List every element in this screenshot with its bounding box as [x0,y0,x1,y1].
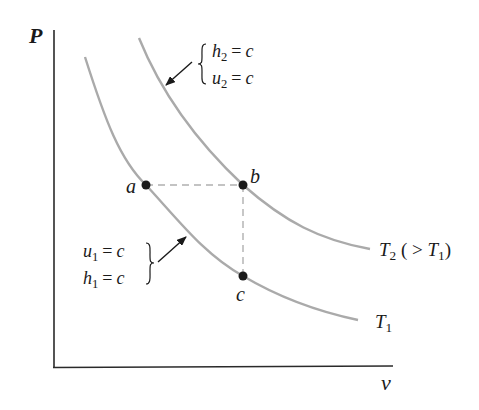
eq-op: = [98,241,116,261]
x-axis-label: v [381,372,391,394]
isotherm-T2-label: T2 ( > T1) [379,240,451,262]
eq-rhs: c [116,268,124,288]
eq-op: = [227,68,245,88]
x-axis [53,366,393,368]
y-axis-label: P [29,25,42,47]
point-b [239,181,248,190]
label-sub: 2 [390,248,397,263]
point-c-label: c [236,284,245,304]
eq-lhs: h [83,268,92,288]
pv-diagram: P v a b c h2=c u2=c u1=c h1=c T2 ( > T1)… [0,0,479,410]
eq-op: = [98,268,116,288]
left-brace-icon [198,44,206,84]
label-compare-T: T [428,239,439,260]
label-compare-sub: 1 [438,248,445,263]
eq-rhs: c [116,241,124,261]
point-a [142,181,151,190]
eq-lhs: h [212,41,221,61]
point-c [239,272,248,281]
equation-u1-const: u1=c [83,241,124,268]
annotation-T1: u1=c h1=c [83,241,124,295]
equation-h1-const: h1=c [83,268,124,295]
isotherm-T1-label: T1 [375,312,392,334]
eq-lhs: u [83,241,92,261]
point-a-label: a [126,176,136,196]
eq-rhs: c [245,68,253,88]
eq-rhs: c [245,41,253,61]
label-main: T [375,311,386,332]
equation-u2-const: u2=c [212,68,253,95]
label-main: T [379,239,390,260]
right-brace-icon [146,243,154,284]
arrow-to-T2-icon [166,62,192,85]
label-sub: 1 [386,320,393,335]
label-paren-open: ( > [401,239,428,260]
equation-h2-const: h2=c [212,41,253,68]
label-paren-close: ) [445,239,451,260]
annotation-T2: h2=c u2=c [212,41,253,95]
eq-lhs: u [212,68,221,88]
eq-op: = [227,41,245,61]
point-b-label: b [250,166,260,186]
arrow-to-T1-icon [158,237,186,262]
